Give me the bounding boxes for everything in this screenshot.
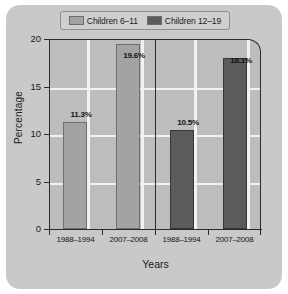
gridline-vertical-3 [194, 40, 197, 229]
chart-figure: Children 6–11 Children 12–19 11.3% 19.6%… [0, 0, 288, 294]
bar-children-12-19-1988-1994 [170, 130, 194, 229]
bar-value-label-3: 10.5% [158, 118, 218, 127]
y-tick-label-5: 5 [19, 176, 41, 187]
gridline-vertical-4 [247, 40, 250, 229]
y-tick-label-0: 0 [19, 223, 41, 234]
bar-children-12-19-2007-2008 [223, 58, 247, 229]
chart-legend: Children 6–11 Children 12–19 [60, 11, 230, 30]
bar-children-6-11-1988-1994 [63, 122, 87, 229]
y-tick-label-20: 20 [19, 33, 41, 44]
x-tick-label-2007-2008-a: 2007–2008 [102, 235, 155, 244]
bar-value-label-1: 11.3% [51, 110, 111, 119]
legend-swatch-icon-children-6-11 [69, 16, 84, 25]
x-tick-label-2007-2008-b: 2007–2008 [208, 235, 261, 244]
plot-area [49, 39, 261, 229]
y-tick-mark-5 [44, 182, 49, 183]
x-tick-label-1988-1994-b: 1988–1994 [155, 235, 208, 244]
bar-value-label-2: 19.6% [104, 51, 164, 60]
legend-swatch-icon-children-12-19 [147, 16, 162, 25]
gridline-vertical-2 [141, 40, 144, 229]
bar-value-label-4: 18.1% [211, 56, 271, 65]
legend-label-children-12-19: Children 12–19 [165, 16, 221, 26]
group-divider [155, 40, 156, 229]
bar-children-6-11-2007-2008 [116, 44, 140, 229]
gridline-vertical-1 [87, 40, 90, 229]
y-axis-line [49, 39, 50, 230]
x-axis-title: Years [49, 258, 262, 270]
y-axis-title: Percentage [13, 78, 24, 158]
x-tick-label-1988-1994-a: 1988–1994 [49, 235, 102, 244]
y-tick-mark-15 [44, 87, 49, 88]
y-tick-mark-10 [44, 134, 49, 135]
legend-entry-children-12-19: Children 12–19 [147, 16, 221, 26]
y-tick-mark-20 [44, 39, 49, 40]
legend-entry-children-6-11: Children 6–11 [69, 16, 138, 26]
legend-label-children-6-11: Children 6–11 [87, 16, 138, 26]
